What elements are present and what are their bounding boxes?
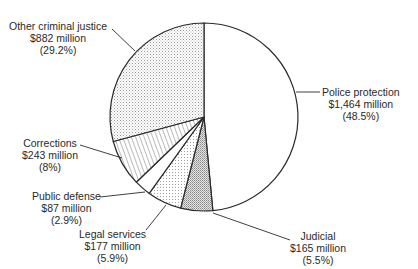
label-percent: (5.9%) [79, 252, 146, 264]
label-percent: (29.2%) [9, 44, 107, 56]
label-percent: (8%) [22, 161, 78, 173]
label-public-defense: Public defense $87 million (2.9%) [32, 190, 101, 226]
label-other-criminal-justice: Other criminal justice $882 million (29.… [9, 20, 107, 56]
label-value: $177 million [79, 240, 146, 252]
pie-slices [110, 23, 298, 211]
label-police-protection: Police protection $1,464 million (48.5%) [322, 86, 400, 122]
label-value: $165 million [290, 242, 346, 254]
label-value: $882 million [9, 32, 107, 44]
leader-line-legal [146, 205, 166, 230]
leader-line-other [112, 29, 135, 51]
pie-slice-police-protection [204, 23, 298, 211]
label-percent: (2.9%) [32, 214, 101, 226]
label-value: $1,464 million [322, 98, 400, 110]
label-name: Police protection [322, 86, 400, 98]
label-name: Other criminal justice [9, 20, 107, 32]
label-name: Legal services [79, 228, 146, 240]
label-judicial: Judicial $165 million (5.5%) [290, 230, 346, 266]
label-legal-services: Legal services $177 million (5.9%) [79, 228, 146, 264]
label-name: Judicial [290, 230, 346, 242]
label-value: $87 million [32, 202, 101, 214]
label-percent: (48.5%) [322, 110, 400, 122]
leader-line-judicial [213, 213, 290, 240]
label-corrections: Corrections $243 million (8%) [22, 137, 78, 173]
label-name: Corrections [22, 137, 78, 149]
leader-line-defense [100, 192, 145, 197]
label-percent: (5.5%) [290, 254, 346, 266]
label-name: Public defense [32, 190, 101, 202]
label-value: $243 million [22, 149, 78, 161]
